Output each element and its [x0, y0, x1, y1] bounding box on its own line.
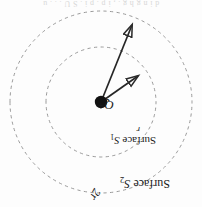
surface-s2-label: Surface S2 — [120, 175, 170, 191]
point-charge-symbol: Q — [105, 98, 114, 113]
surface-s1-label: Surface S1 — [110, 132, 156, 147]
surface-s2-index: 2 — [120, 175, 124, 185]
surface-s2-prefix: Surface — [130, 177, 170, 191]
point-charge-sign: + — [97, 98, 104, 113]
figure-canvas: d i n g h g . , i p . p i . S U . . . u … — [0, 0, 202, 207]
surface-s1-prefix: Surface — [120, 135, 156, 147]
surface-s1-index: 1 — [110, 132, 114, 141]
rotated-diagram-plate: Q+ r 2r Surface S1 Surface S2 — [0, 0, 202, 207]
surface-s1-symbol: S — [114, 135, 120, 147]
point-charge-label: Q+ — [97, 97, 114, 113]
surface-s2-symbol: S — [124, 177, 130, 191]
